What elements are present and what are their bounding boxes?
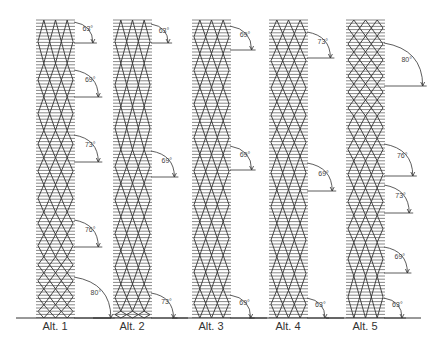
angle-annotation: 63° <box>151 24 172 43</box>
angle-annotation: 69° <box>151 151 178 177</box>
angle-annotation: 76° <box>384 144 417 176</box>
angle-value: 80° <box>401 56 412 63</box>
alt-label-1: Alt. 1 <box>25 320 85 332</box>
angle-annotation: 69° <box>74 70 102 97</box>
angle-value: 63° <box>83 25 94 32</box>
angle-value: 73° <box>85 141 96 148</box>
angle-annotation: 69° <box>307 163 336 191</box>
angle-annotation: 69° <box>384 247 411 273</box>
angle-annotation: 73° <box>307 32 334 58</box>
angle-value: 73° <box>161 298 172 305</box>
braid-column-4: 73°69°63° <box>249 20 344 318</box>
angle-value: 63° <box>159 27 170 34</box>
braid-column-5: 80°76°73°69°63° <box>326 20 427 318</box>
angle-annotation: 73° <box>74 135 102 162</box>
angle-value: 69° <box>240 151 251 158</box>
angle-annotation: 69° <box>230 295 255 318</box>
angle-value: 69° <box>85 76 96 83</box>
angle-annotation: 76° <box>74 220 102 247</box>
angle-value: 69° <box>318 170 329 177</box>
braid-diagram: 63°69°73°76°80°63°69°73°69°69°69°73°69°6… <box>0 0 442 348</box>
alt-label-3: Alt. 3 <box>181 320 241 332</box>
angle-value: 69° <box>162 157 173 164</box>
angle-annotation: 73° <box>384 185 413 213</box>
angle-value: 80° <box>91 289 102 296</box>
angle-value: 73° <box>318 38 329 45</box>
angle-value: 76° <box>397 152 408 159</box>
angle-annotation: 69° <box>230 26 256 50</box>
angle-annotation: 63° <box>384 298 406 318</box>
braid-column-2: 63°69°73° <box>93 20 188 318</box>
angle-value: 76° <box>85 226 96 233</box>
alt-label-4: Alt. 4 <box>258 320 318 332</box>
angle-annotation: 63° <box>307 298 329 318</box>
angle-annotation: 73° <box>151 293 178 318</box>
angle-value: 63° <box>315 301 326 308</box>
angle-annotation: 80° <box>384 43 427 86</box>
angle-value: 69° <box>395 253 406 260</box>
angle-annotation: 63° <box>74 22 97 43</box>
angle-value: 69° <box>240 31 251 38</box>
angle-value: 63° <box>392 301 403 308</box>
angle-value: 73° <box>395 192 406 199</box>
angle-annotation: 69° <box>230 146 256 170</box>
angle-annotation: 80° <box>74 277 115 318</box>
alt-label-2: Alt. 2 <box>102 320 162 332</box>
braid-column-3: 69°69°69° <box>172 20 267 318</box>
alt-label-5: Alt. 5 <box>335 320 395 332</box>
braid-column-1: 63°69°73°76°80° <box>16 20 115 318</box>
angle-value: 69° <box>239 299 250 306</box>
